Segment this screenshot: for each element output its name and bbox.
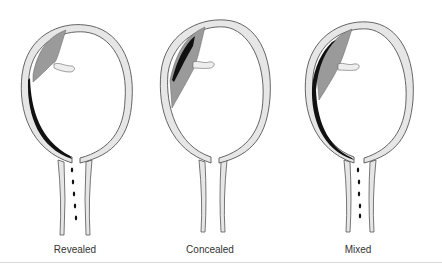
bottom-divider	[0, 262, 442, 263]
uterus-concealed-illustration	[145, 0, 305, 245]
label-concealed: Concealed	[160, 244, 260, 255]
umbilical-cord	[193, 61, 214, 68]
label-revealed: Revealed	[25, 244, 125, 255]
bleeding-drops	[71, 168, 77, 221]
uterus-mixed-illustration	[292, 0, 442, 245]
label-mixed: Mixed	[308, 244, 408, 255]
bleeding-drops	[357, 168, 361, 219]
uterine-wall	[21, 25, 132, 163]
umbilical-cord	[338, 63, 359, 70]
umbilical-cord	[54, 63, 74, 72]
panel-concealed	[145, 0, 305, 245]
uterus-revealed-illustration	[0, 0, 150, 245]
panel-revealed	[0, 0, 150, 245]
panel-mixed	[292, 0, 442, 245]
